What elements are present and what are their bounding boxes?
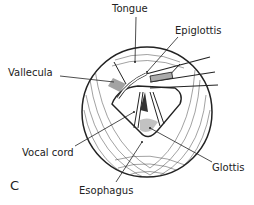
panel-label: C [10, 178, 19, 193]
vallecula-label: Vallecula [8, 68, 53, 78]
vocal-cord-label: Vocal cord [22, 148, 74, 158]
esophagus-label: Esophagus [79, 186, 133, 196]
tongue-label: Tongue [112, 4, 148, 14]
epiglottis-label: Epiglottis [175, 26, 222, 36]
glottis-label: Glottis [212, 163, 244, 173]
